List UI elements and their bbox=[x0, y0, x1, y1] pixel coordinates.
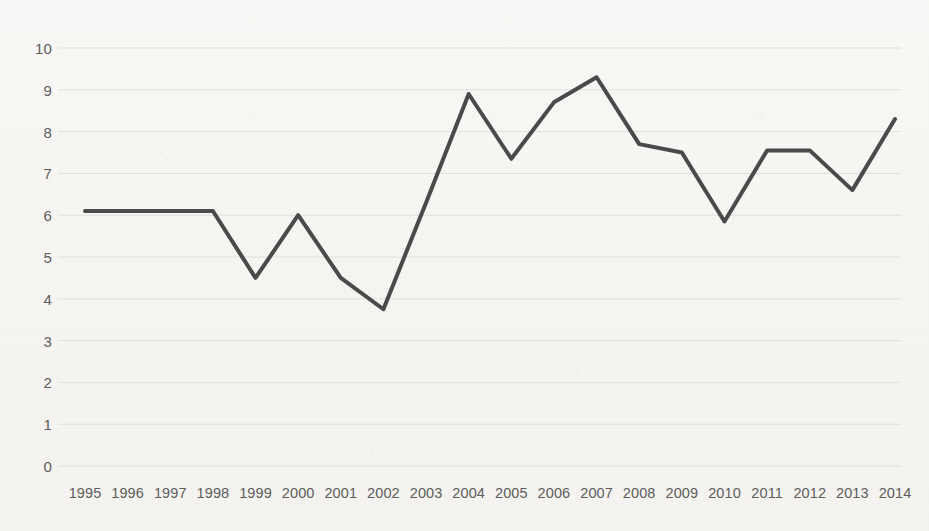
x-axis-tick-label: 2005 bbox=[495, 486, 528, 501]
y-axis-tick-label: 5 bbox=[18, 250, 52, 265]
chart-plot-area bbox=[0, 0, 929, 531]
x-axis-tick-label: 1999 bbox=[239, 486, 272, 501]
x-axis-tick-label: 2007 bbox=[580, 486, 613, 501]
x-axis-tick-label: 2012 bbox=[793, 486, 826, 501]
x-axis-tick-label: 2003 bbox=[410, 486, 443, 501]
x-axis-tick-label: 1998 bbox=[197, 486, 230, 501]
x-axis-tick-label: 1997 bbox=[154, 486, 187, 501]
x-axis-tick-label: 1995 bbox=[69, 486, 102, 501]
y-axis-tick-label: 6 bbox=[18, 208, 52, 223]
y-axis-tick-label: 10 bbox=[18, 41, 52, 56]
x-axis-tick-label: 2009 bbox=[665, 486, 698, 501]
x-axis-tick-label: 2014 bbox=[879, 486, 912, 501]
x-axis-tick-label: 2011 bbox=[751, 486, 783, 501]
data-series-group bbox=[85, 77, 895, 309]
x-axis-tick-label: 2006 bbox=[538, 486, 571, 501]
x-axis-tick-label: 2008 bbox=[623, 486, 656, 501]
x-axis-tick-label: 2002 bbox=[367, 486, 400, 501]
y-axis-tick-label: 9 bbox=[18, 83, 52, 98]
y-axis-tick-label: 2 bbox=[18, 375, 52, 390]
y-axis-tick-label: 7 bbox=[18, 166, 52, 181]
line-chart: 109876543210 199519961997199819992000200… bbox=[0, 0, 929, 531]
y-axis-tick-label: 4 bbox=[18, 292, 52, 307]
y-axis-tick-label: 8 bbox=[18, 125, 52, 140]
x-axis-tick-label: 1996 bbox=[111, 486, 144, 501]
x-axis-tick-label: 2013 bbox=[836, 486, 869, 501]
y-axis-tick-label: 3 bbox=[18, 334, 52, 349]
data-line-series-0 bbox=[85, 77, 895, 309]
y-axis-tick-label: 1 bbox=[18, 417, 52, 432]
x-axis-tick-label: 2010 bbox=[708, 486, 741, 501]
x-axis-tick-label: 2000 bbox=[282, 486, 315, 501]
x-axis-tick-label: 2001 bbox=[324, 486, 357, 501]
x-axis-tick-label: 2004 bbox=[452, 486, 485, 501]
y-axis-tick-label: 0 bbox=[18, 459, 52, 474]
